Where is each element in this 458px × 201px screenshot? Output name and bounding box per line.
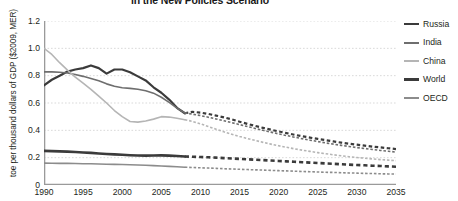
y-tick-label: 0.8 [16,71,40,80]
legend-swatch-india [404,42,419,44]
y-tick-label: 0.2 [16,153,40,162]
chart-legend: RussiaIndiaChinaWorldOECD [404,15,458,108]
x-tick-label: 2015 [220,188,260,197]
series-line-india-historical [44,72,185,113]
x-tick-label: 2010 [180,188,220,197]
plot-svg [44,21,396,185]
legend-label: World [423,75,445,84]
legend-label: China [423,57,445,66]
legend-swatch-russia [404,23,419,25]
x-axis-tick-labels: 1990199520002005201020152020202520302035 [44,188,396,201]
x-tick-label: 2025 [298,188,338,197]
x-tick-label: 1990 [24,188,64,197]
legend-label: India [423,38,442,47]
x-tick-label: 2035 [376,188,416,197]
series-line-world-historical [44,151,185,157]
plot-area [44,21,396,185]
legend-item-india[interactable]: India [404,34,458,53]
y-axis-tick-labels: 1.21.00.80.60.40.20 [14,21,40,185]
legend-item-china[interactable]: China [404,52,458,71]
chart-title: in the New Policies Scenario [0,0,400,6]
chart-figure: in the New Policies Scenario toe per tho… [0,0,458,201]
legend-item-world[interactable]: World [404,71,458,90]
x-tick-label: 2020 [259,188,299,197]
y-tick-label: 1.2 [16,17,40,26]
series-line-oecd-historical [44,163,185,167]
legend-item-oecd[interactable]: OECD [404,89,458,108]
x-tick-label: 2000 [102,188,142,197]
series-line-china-historical [44,48,185,122]
x-tick-label: 2005 [141,188,181,197]
legend-swatch-china [404,60,419,62]
legend-item-russia[interactable]: Russia [404,15,458,34]
series-line-oecd-projection [185,167,396,174]
y-tick-label: 0.4 [16,126,40,135]
series-line-china-projection [185,120,396,161]
legend-swatch-world [404,78,419,81]
y-tick-label: 1.0 [16,44,40,53]
legend-swatch-oecd [404,97,419,99]
legend-label: OECD [423,94,448,103]
series-line-world-projection [185,157,396,167]
y-tick-label: 0.6 [16,99,40,108]
x-tick-label: 1995 [63,188,103,197]
legend-label: Russia [423,20,449,29]
x-tick-label: 2030 [337,188,377,197]
